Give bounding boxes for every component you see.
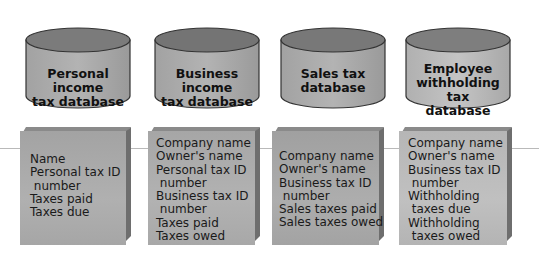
field-item: Sales taxes owed [279, 216, 379, 229]
field-item: Company name [279, 150, 379, 163]
database-label-line: Sales tax [279, 67, 387, 81]
field-item: Withholding [408, 190, 507, 203]
database-label-line: tax database [24, 95, 132, 109]
field-item: taxes owed [408, 230, 507, 243]
database-label-line: withholding tax [404, 76, 512, 104]
database-label-line: Employee [404, 62, 512, 76]
employee-withholding-tax-database-cylinder: Employee withholding tax database [404, 26, 512, 110]
field-item: number [408, 177, 507, 190]
field-item: Owner's name [408, 150, 507, 163]
business-income-tax-database-cylinder: Business income tax database [153, 26, 261, 110]
field-item: number [30, 180, 126, 193]
sales-tax-database-cylinder: Sales tax database [279, 26, 387, 110]
field-item: taxes due [408, 203, 507, 216]
field-item: Personal tax ID [30, 166, 126, 179]
field-item: Company name [156, 137, 255, 150]
database-label-line: database [279, 81, 387, 95]
field-item: Business tax ID [279, 177, 379, 190]
field-item: Sales taxes paid [279, 203, 379, 216]
field-item: Personal tax ID [156, 164, 255, 177]
field-item: Taxes due [30, 206, 126, 219]
field-item: number [279, 190, 379, 203]
field-item: Name [30, 153, 126, 166]
field-item: Business tax ID [156, 190, 255, 203]
employee-withholding-fields-box: Company name Owner's name Business tax I… [399, 127, 512, 245]
field-item: Taxes paid [30, 193, 126, 206]
sales-tax-fields-box: Company name Owner's name Business tax I… [272, 127, 384, 245]
field-list: Company name Owner's name Business tax I… [408, 137, 507, 243]
field-item: Taxes owed [156, 230, 255, 243]
database-label-line: Personal income [24, 67, 132, 95]
field-list: Company name Owner's name Personal tax I… [156, 137, 255, 243]
database-label-line: database [404, 104, 512, 118]
field-list: Name Personal tax ID number Taxes paid T… [30, 153, 126, 219]
business-income-fields-box: Company name Owner's name Personal tax I… [148, 127, 260, 245]
field-item: Business tax ID [408, 164, 507, 177]
field-item: number [156, 177, 255, 190]
database-label-line: Business income [153, 67, 261, 95]
field-item: Withholding [408, 217, 507, 230]
field-item: number [156, 203, 255, 216]
personal-income-fields-box: Name Personal tax ID number Taxes paid T… [20, 127, 131, 245]
personal-income-tax-database-cylinder: Personal income tax database [24, 26, 132, 110]
field-list: Company name Owner's name Business tax I… [279, 150, 379, 230]
field-item: Owner's name [279, 163, 379, 176]
field-item: Taxes paid [156, 217, 255, 230]
database-label-line: tax database [153, 95, 261, 109]
field-item: Owner's name [156, 150, 255, 163]
field-item: Company name [408, 137, 507, 150]
